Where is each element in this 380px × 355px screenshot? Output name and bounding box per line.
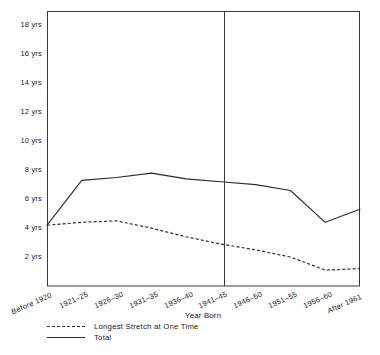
legend-item-total: Total: [47, 332, 347, 343]
legend-swatch-solid-icon: [47, 333, 85, 342]
chart-container: 2 yrs4 yrs6 yrs8 yrs10 yrs12 yrs14 yrs16…: [0, 0, 380, 355]
chart-legend: Longest Stretch at One Time Total: [47, 321, 347, 343]
legend-swatch-dashed-icon: [47, 322, 85, 331]
y-axis-tick-label: 8 yrs: [2, 165, 42, 174]
y-axis-tick-label: 18 yrs: [2, 20, 42, 29]
x-axis-title: Year Born: [185, 311, 221, 320]
series-line-total: [47, 173, 360, 225]
y-axis-tick-label: 14 yrs: [2, 78, 42, 87]
y-axis-tick-label: 12 yrs: [2, 107, 42, 116]
y-axis-tick-label: 10 yrs: [2, 136, 42, 145]
series-line-longest-stretch: [47, 221, 360, 270]
legend-item-longest-stretch: Longest Stretch at One Time: [47, 321, 347, 332]
y-axis-tick-label: 4 yrs: [2, 223, 42, 232]
plot-frame: [48, 12, 360, 287]
y-axis-tick-label: 2 yrs: [2, 252, 42, 261]
y-axis-tick-label: 6 yrs: [2, 194, 42, 203]
legend-label-total: Total: [94, 333, 111, 342]
y-axis-tick-label: 16 yrs: [2, 49, 42, 58]
legend-label-longest-stretch: Longest Stretch at One Time: [94, 322, 199, 331]
